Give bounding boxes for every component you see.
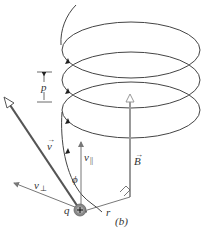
v-perp-label: v xyxy=(34,179,39,191)
velocity-vector xyxy=(4,97,80,210)
figure-caption: (b) xyxy=(115,215,128,228)
angle-label: ϕ xyxy=(72,173,78,185)
charge-particle xyxy=(74,204,86,216)
v-parallel-label: v xyxy=(84,151,89,163)
v-parallel-subscript: || xyxy=(90,156,93,165)
svg-text:→: → xyxy=(135,150,143,159)
helical-motion-diagram: p B → r v → v || v ⊥ ϕ q (b) xyxy=(0,0,207,229)
radius-label: r xyxy=(106,206,111,218)
svg-text:→: → xyxy=(47,135,55,144)
magnetic-field-vector xyxy=(126,94,134,197)
helix-direction-arrows xyxy=(65,58,70,154)
pitch-label: p xyxy=(40,81,47,93)
arrow-head-icon xyxy=(65,148,70,154)
charge-label: q xyxy=(64,204,70,216)
v-perp-subscript: ⊥ xyxy=(40,184,47,193)
right-angle-marker xyxy=(120,186,130,196)
